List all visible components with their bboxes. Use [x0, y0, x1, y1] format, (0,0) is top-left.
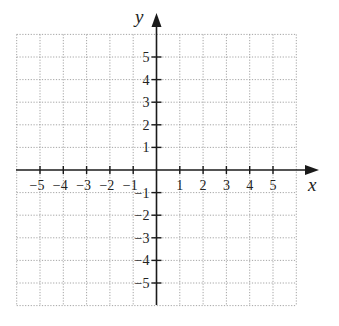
y-tick-label: 3	[143, 95, 150, 110]
y-tick-label: −5	[135, 276, 150, 291]
coordinate-plane: −5−4−3−2−112345 54321−1−2−3−4−5 x y	[0, 0, 339, 326]
x-tick-label: −5	[30, 178, 45, 193]
y-tick-label: −3	[135, 231, 150, 246]
axes	[16, 13, 319, 305]
y-tick-label: 2	[143, 118, 150, 133]
x-tick-label: 2	[200, 178, 207, 193]
y-tick-label: −4	[135, 253, 150, 268]
x-tick-label: −2	[99, 178, 114, 193]
x-tick-label: −3	[76, 178, 91, 193]
x-tick-label: 4	[246, 178, 253, 193]
y-axis-label: y	[133, 6, 144, 27]
y-tick-label: 1	[143, 140, 150, 155]
y-tick-label: 4	[143, 73, 150, 88]
y-tick-label: 5	[143, 50, 150, 65]
x-tick-label: 5	[270, 178, 277, 193]
x-tick-label: 3	[223, 178, 230, 193]
y-tick-label: −1	[135, 186, 150, 201]
x-tick-label: −4	[53, 178, 68, 193]
y-axis-arrowhead-icon	[152, 13, 162, 27]
x-axis-label: x	[307, 174, 317, 195]
y-tick-label: −2	[135, 208, 150, 223]
x-tick-label: 1	[176, 178, 183, 193]
